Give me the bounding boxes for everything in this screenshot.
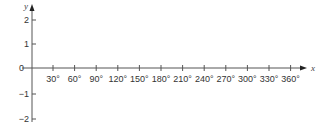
y-tick-label: −2 bbox=[19, 114, 29, 124]
x-tick-label: 60° bbox=[68, 74, 82, 84]
x-tick-label: 300° bbox=[238, 74, 257, 84]
x-tick-label: 180° bbox=[152, 74, 171, 84]
y-axis-arrow-icon bbox=[30, 4, 35, 11]
y-axis-label: y bbox=[23, 1, 28, 11]
x-tick-label: 360° bbox=[281, 74, 300, 84]
x-axis-label: x bbox=[310, 63, 315, 73]
x-tick-label: 270° bbox=[216, 74, 235, 84]
y-tick-label: −1 bbox=[19, 89, 29, 99]
x-tick-label: 240° bbox=[195, 74, 214, 84]
x-tick-label: 150° bbox=[130, 74, 149, 84]
x-axis: 30°60°90°120°150°180°210°240°270°300°330… bbox=[22, 65, 307, 84]
x-axis-arrow-icon bbox=[300, 66, 307, 71]
x-tick-label: 90° bbox=[89, 74, 103, 84]
empty-trig-axes-chart: 21−1−20 30°60°90°120°150°180°210°240°270… bbox=[0, 0, 321, 128]
y-tick-label: 2 bbox=[24, 15, 29, 25]
x-tick-label: 120° bbox=[108, 74, 127, 84]
x-tick-label: 210° bbox=[173, 74, 192, 84]
x-tick-label: 30° bbox=[46, 74, 60, 84]
x-tick-label: 330° bbox=[260, 74, 279, 84]
y-axis: 21−1−20 bbox=[19, 4, 36, 124]
y-tick-label: 1 bbox=[24, 39, 29, 49]
